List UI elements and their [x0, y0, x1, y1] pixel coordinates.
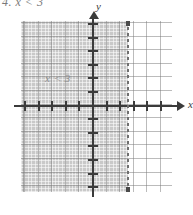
boundary-bottom-marker — [126, 187, 130, 192]
boundary-line-dashed — [127, 21, 129, 192]
x-tick — [119, 101, 121, 111]
boundary-top-marker — [126, 21, 130, 26]
x-tick — [38, 101, 40, 111]
x-tick — [160, 101, 162, 111]
x-axis-arrow-icon — [177, 101, 185, 111]
y-axis-label: y — [96, 0, 101, 12]
y-tick — [88, 50, 98, 52]
y-tick — [88, 132, 98, 134]
worksheet-page: 4. x < 3 — [0, 0, 193, 215]
y-tick — [88, 77, 98, 79]
x-tick — [78, 101, 80, 111]
problem-number-label: 4. x < 3 — [2, 0, 43, 10]
y-tick — [88, 91, 98, 93]
y-tick — [88, 186, 98, 188]
inequality-annotation: x < 3 — [45, 72, 71, 84]
x-tick — [65, 101, 67, 111]
y-tick — [88, 23, 98, 25]
y-axis-arrow-icon — [89, 11, 99, 19]
y-axis — [92, 17, 94, 197]
x-tick — [106, 101, 108, 111]
y-tick — [88, 64, 98, 66]
x-tick — [133, 101, 135, 111]
y-tick — [88, 145, 98, 147]
y-tick — [88, 159, 98, 161]
y-tick — [88, 173, 98, 175]
y-tick — [88, 37, 98, 39]
x-tick — [146, 101, 148, 111]
coordinate-graph: y x x < 3 — [21, 21, 172, 192]
x-axis-label: x — [188, 98, 193, 110]
x-tick — [24, 101, 26, 111]
x-tick — [51, 101, 53, 111]
y-tick — [88, 118, 98, 120]
